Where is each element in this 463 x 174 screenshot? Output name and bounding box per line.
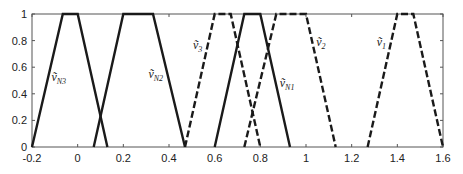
series-label: ṽN3 (51, 70, 66, 86)
y-tick-label: 0 (21, 141, 27, 153)
x-tick-label: 0 (75, 152, 81, 164)
fuzzy-membership-chart: -0.200.20.40.60.811.21.41.6 00.20.40.60.… (0, 0, 463, 174)
x-tick-label: -0.2 (23, 152, 42, 164)
y-axis: 00.20.40.60.81 (12, 8, 443, 153)
series-ṽN2 (94, 14, 185, 147)
series-ṽN1 (215, 14, 290, 147)
series-label: ṽ1 (377, 35, 386, 51)
series-labels: ṽN3ṽN2ṽ3ṽN1ṽ2ṽ1 (51, 35, 386, 92)
series-label: ṽ2 (316, 35, 325, 51)
y-tick-label: 0.6 (12, 61, 27, 73)
x-tick-label: 0.2 (116, 152, 131, 164)
x-tick-label: 0.4 (161, 152, 176, 164)
series-ṽN3 (32, 14, 107, 147)
x-tick-label: 1.2 (344, 152, 359, 164)
series-label: ṽN1 (280, 76, 295, 92)
x-tick-label: 1 (303, 152, 309, 164)
y-tick-label: 1 (21, 8, 27, 20)
series-ṽ2 (244, 14, 335, 147)
y-tick-label: 0.2 (12, 114, 27, 126)
y-tick-label: 0.8 (12, 35, 27, 47)
x-tick-label: 0.6 (207, 152, 222, 164)
series-label: ṽN2 (148, 67, 163, 83)
x-tick-label: 0.8 (253, 152, 268, 164)
x-tick-label: 1.6 (435, 152, 450, 164)
y-tick-label: 0.4 (12, 88, 27, 100)
x-tick-label: 1.4 (390, 152, 405, 164)
series-label: ṽ3 (193, 38, 202, 54)
